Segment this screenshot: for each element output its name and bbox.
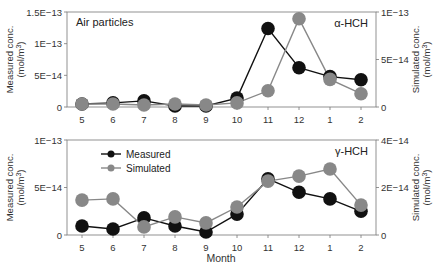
compound-label: α-HCH [334,17,368,29]
compound-label: γ-HCH [335,145,368,157]
y-right-tick-label: 5E−14 [381,54,409,65]
y-tick-label: 0 [57,102,62,113]
data-point-simulated [261,174,275,188]
data-point-simulated [292,12,306,26]
x-tick-label: 8 [172,114,177,125]
legend-label: Measured [126,149,170,160]
x-tick-label: 12 [294,114,305,125]
data-point-simulated [354,198,368,212]
legend-marker-icon [108,151,115,158]
data-point-simulated [137,98,151,112]
y-tick-label: 5E−14 [34,182,62,193]
x-tick-label: 2 [358,242,363,253]
data-point-measured [75,219,89,233]
data-point-simulated [75,97,89,111]
y-axis-title-right: Simulated conc.(mol/m3) [410,26,432,94]
x-tick-label: 10 [232,114,243,125]
alpha-hch-panel: 05E−141E−131.5E−1305E−141E−1356789101112… [4,7,432,126]
y-right-tick-label: 0 [381,102,386,113]
data-point-simulated [168,210,182,224]
y-axis-title-left: Measured conc.(mol/m3) [4,26,26,94]
x-tick-label: 11 [263,114,273,125]
data-point-simulated [168,97,182,111]
panel-title: Air particles [76,16,134,28]
legend-label: Simulated [126,163,170,174]
series-line-measured [82,179,361,232]
x-tick-label: 7 [141,114,146,125]
y-axis-title-right: Simulated conc.(mol/m3) [410,154,432,222]
data-point-simulated [106,97,120,111]
data-point-measured [292,61,306,75]
series-line-simulated [82,19,361,105]
data-point-simulated [354,87,368,101]
data-point-simulated [323,73,337,87]
data-point-simulated [230,200,244,214]
y-tick-label: 1.5E−13 [26,7,62,18]
y-right-tick-label: 2E−14 [381,182,409,193]
figure: 05E−141E−131.5E−1305E−141E−1356789101112… [0,0,438,270]
data-point-simulated [292,169,306,183]
legend-marker-icon [108,165,115,172]
x-tick-label: 1 [327,114,332,125]
y-axis-title-left: Measured conc.(mol/m3) [4,154,26,222]
data-point-measured [292,186,306,200]
data-point-measured [354,73,368,87]
data-point-simulated [137,220,151,234]
y-right-tick-label: 1E−13 [381,7,409,18]
data-point-simulated [261,84,275,98]
y-tick-label: 1E−13 [34,38,62,49]
x-tick-label: 5 [79,114,84,125]
gamma-hch-panel: 05E−141E−1302E−144E−145678910111212Measu… [4,135,432,254]
x-tick-label: 6 [110,114,115,125]
x-tick-label: 1 [327,242,332,253]
data-point-simulated [199,216,213,230]
data-point-simulated [106,192,120,206]
data-point-simulated [323,162,337,176]
x-tick-label: 11 [263,242,273,253]
x-tick-label: 9 [203,114,208,125]
y-tick-label: 1E−13 [34,135,62,146]
data-point-simulated [75,193,89,207]
data-point-simulated [230,96,244,110]
y-right-tick-label: 0 [381,230,386,241]
data-point-measured [106,222,120,236]
data-point-measured [323,192,337,206]
y-tick-label: 0 [57,230,62,241]
y-tick-label: 5E−14 [34,70,62,81]
x-tick-label: 7 [141,242,146,253]
x-axis-title: Month [206,252,235,264]
x-tick-label: 12 [294,242,305,253]
data-point-measured [261,22,275,36]
series-line-simulated [82,169,361,227]
x-tick-label: 6 [110,242,115,253]
x-tick-label: 5 [79,242,84,253]
series-line-measured [82,29,361,107]
x-tick-label: 2 [358,114,363,125]
data-point-simulated [199,98,213,112]
x-tick-label: 8 [172,242,177,253]
y-right-tick-label: 4E−14 [381,135,409,146]
